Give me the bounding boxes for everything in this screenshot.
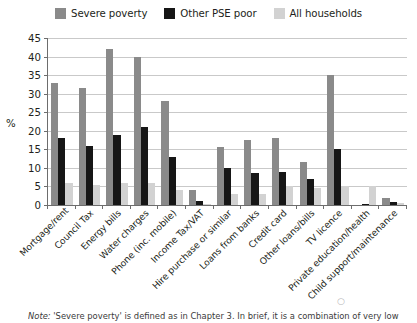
plot-area: 051015202530354045 [47, 38, 407, 205]
y-axis-tick-label: 35 [28, 70, 41, 81]
y-axis-tick-label: 20 [28, 125, 41, 136]
bar [217, 147, 224, 205]
bar [148, 183, 155, 205]
bar-group [103, 38, 131, 205]
bar [161, 101, 168, 205]
bar [231, 194, 238, 205]
bar [51, 83, 58, 205]
stray-artifact: ○ [337, 296, 345, 306]
chart-note-prefix: Note: [28, 311, 51, 321]
legend-item-other-pse-poor: Other PSE poor [164, 8, 256, 19]
bar-group [324, 38, 352, 205]
y-axis-tick-label: 45 [28, 33, 41, 44]
bar-group [131, 38, 159, 205]
legend-label-severe-poverty: Severe poverty [71, 8, 147, 19]
bar-group [269, 38, 297, 205]
y-axis-tick-label: 25 [28, 107, 41, 118]
bar-group [241, 38, 269, 205]
bar [176, 190, 183, 205]
bar [341, 186, 348, 205]
y-axis-tick-label: 15 [28, 144, 41, 155]
legend-swatch-other-pse-poor-icon [164, 8, 175, 19]
bar [65, 183, 72, 205]
legend-item-all-households: All households [274, 8, 362, 19]
x-axis-labels: Mortgage/rentCouncil TaxEnergy billsWate… [0, 205, 417, 303]
bar [189, 190, 196, 205]
bar [58, 138, 65, 205]
bar-group [76, 38, 104, 205]
legend-label-all-households: All households [290, 8, 362, 19]
bar [86, 146, 93, 205]
bar [251, 173, 258, 205]
bar [113, 135, 120, 206]
bar [300, 162, 307, 205]
chart-note-text: 'Severe poverty' is defined as in Chapte… [51, 311, 399, 321]
bar [382, 198, 389, 205]
bar [224, 168, 231, 205]
bar-group [48, 38, 76, 205]
legend-swatch-severe-poverty-icon [55, 8, 66, 19]
bar [79, 88, 86, 205]
bar-chart: Severe poverty Other PSE poor All househ… [0, 0, 417, 323]
legend-label-other-pse-poor: Other PSE poor [180, 8, 256, 19]
bar [121, 183, 128, 205]
y-axis-tick-label: 5 [35, 181, 41, 192]
legend-swatch-all-households-icon [274, 8, 285, 19]
bar [327, 75, 334, 205]
bar [272, 138, 279, 205]
bar [259, 194, 266, 205]
bar [93, 185, 100, 205]
y-axis-title: % [6, 118, 16, 129]
bar-group [186, 38, 214, 205]
bar [134, 57, 141, 205]
bar-group [158, 38, 186, 205]
chart-note: Note: 'Severe poverty' is defined as in … [28, 311, 413, 322]
bar [286, 186, 293, 205]
bar [106, 49, 113, 205]
bar-group [214, 38, 242, 205]
bar [141, 127, 148, 205]
chart-legend: Severe poverty Other PSE poor All househ… [0, 3, 417, 23]
legend-item-severe-poverty: Severe poverty [55, 8, 147, 19]
bar [334, 149, 341, 205]
bar [307, 179, 314, 205]
bar-group [379, 38, 407, 205]
bar-group [352, 38, 380, 205]
y-axis-tick-label: 40 [28, 51, 41, 62]
bar [279, 172, 286, 205]
bar [169, 157, 176, 205]
bar [314, 188, 321, 205]
bar [369, 186, 376, 205]
y-axis-tick-label: 30 [28, 88, 41, 99]
bar [244, 140, 251, 205]
y-axis-tick-label: 10 [28, 162, 41, 173]
bar-groups [48, 38, 407, 205]
x-axis-category-label: Mortgage/rent [18, 208, 68, 258]
bar-group [296, 38, 324, 205]
